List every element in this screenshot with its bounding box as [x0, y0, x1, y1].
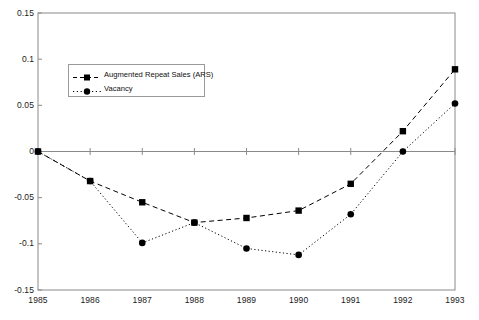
y-axis-tick-label: -0.05 — [0, 192, 34, 202]
data-point-marker — [295, 252, 302, 259]
legend-sample-dotted-circle-icon — [73, 83, 101, 94]
x-axis-tick-label: 1986 — [70, 295, 110, 305]
data-point-marker — [452, 100, 459, 107]
data-point-marker — [452, 66, 458, 72]
data-point-marker — [35, 148, 42, 155]
series-line-vacancy — [38, 103, 455, 254]
y-axis-tick-label: 0.15 — [0, 8, 34, 18]
data-point-marker — [400, 128, 406, 134]
data-point-marker — [243, 245, 250, 252]
x-axis-tick-label: 1993 — [435, 295, 475, 305]
legend-sample-dashed-square-icon — [73, 69, 101, 80]
chart-container: Augmented Repeat Sales (ARS) Vacancy 0.1… — [0, 0, 479, 320]
y-axis-tick-label: -0.1 — [0, 238, 34, 248]
x-axis-tick-label: 1988 — [174, 295, 214, 305]
data-point-marker — [243, 215, 249, 221]
legend-label-ars: Augmented Repeat Sales (ARS) — [104, 70, 213, 79]
x-axis-tick-label: 1991 — [331, 295, 371, 305]
x-axis-tick-label: 1985 — [18, 295, 58, 305]
y-axis-tick-label: 0.05 — [0, 100, 34, 110]
data-point-marker — [139, 199, 145, 205]
x-axis-tick-label: 1990 — [279, 295, 319, 305]
data-point-marker — [191, 219, 198, 226]
y-axis-tick-label: 0.1 — [0, 54, 34, 64]
x-axis-tick-label: 1992 — [383, 295, 423, 305]
data-point-marker — [295, 207, 301, 213]
legend-item-ars: Augmented Repeat Sales (ARS) — [73, 67, 213, 81]
line-chart-plot — [0, 0, 479, 320]
data-point-marker — [87, 178, 94, 185]
x-axis-tick-label: 1989 — [227, 295, 267, 305]
data-point-marker — [347, 211, 354, 218]
data-point-marker — [139, 240, 146, 247]
data-point-marker — [400, 148, 407, 155]
legend-label-vacancy: Vacancy — [104, 84, 133, 93]
data-point-marker — [348, 181, 354, 187]
chart-legend: Augmented Repeat Sales (ARS) Vacancy — [68, 64, 205, 97]
x-axis-tick-label: 1987 — [122, 295, 162, 305]
y-axis-tick-label: -0.15 — [0, 285, 34, 295]
legend-item-vacancy: Vacancy — [73, 81, 133, 95]
y-axis-tick-label: 0 — [0, 146, 34, 156]
